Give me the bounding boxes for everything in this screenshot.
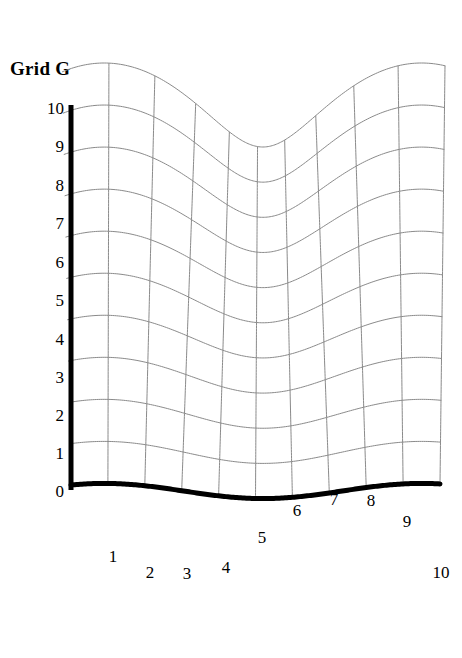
y-tick-0: 0 <box>56 483 65 500</box>
gridline-horizontal <box>69 399 441 428</box>
grid-horizontal-lines <box>62 63 445 463</box>
x-tick-6: 6 <box>293 502 302 519</box>
gridline-vertical <box>145 76 155 486</box>
gridline-vertical <box>219 132 230 496</box>
y-tick-9: 9 <box>56 138 65 155</box>
y-tick-1: 1 <box>56 445 65 462</box>
x-tick-10: 10 <box>433 564 450 581</box>
gridline-horizontal <box>65 189 443 252</box>
y-tick-8: 8 <box>56 177 65 194</box>
gridline-vertical <box>316 116 330 493</box>
gridline-horizontal <box>63 105 444 182</box>
gridline-horizontal <box>64 147 444 217</box>
curvilinear-grid <box>0 0 462 658</box>
gridline-vertical <box>285 140 293 497</box>
x-tick-3: 3 <box>183 565 192 582</box>
x-tick-8: 8 <box>367 492 376 509</box>
x-tick-9: 9 <box>403 513 412 530</box>
gridline-horizontal <box>62 63 445 147</box>
gridline-vertical <box>354 86 366 488</box>
grid-vertical-lines <box>108 63 445 498</box>
x-tick-4: 4 <box>222 559 231 576</box>
x-tick-5: 5 <box>258 529 267 546</box>
x-tick-7: 7 <box>330 491 339 508</box>
gridline-horizontal <box>67 273 443 323</box>
gridline-vertical <box>182 103 196 490</box>
gridline-horizontal <box>66 231 443 287</box>
x-tick-2: 2 <box>146 564 155 581</box>
y-tick-7: 7 <box>56 215 65 232</box>
gridline-horizontal <box>68 357 441 393</box>
figure-canvas: Grid G 109876543210 12345678910 <box>0 0 462 658</box>
y-tick-3: 3 <box>56 369 65 386</box>
x-tick-1: 1 <box>109 548 118 565</box>
gridline-vertical <box>108 63 109 483</box>
y-tick-2: 2 <box>56 407 65 424</box>
y-tick-10: 10 <box>47 100 64 117</box>
y-tick-6: 6 <box>56 254 65 271</box>
gridline-horizontal <box>68 315 442 358</box>
y-tick-5: 5 <box>56 292 65 309</box>
y-tick-4: 4 <box>56 331 65 348</box>
